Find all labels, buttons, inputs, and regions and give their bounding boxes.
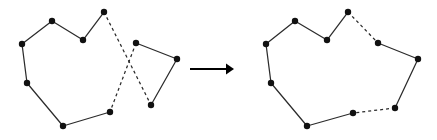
- right-polygon-edge-solid: [307, 113, 353, 126]
- left-polygon-edge-dashed: [104, 12, 151, 105]
- left-polygon-vertex: [133, 40, 139, 46]
- left-polygon-edges: [22, 12, 177, 126]
- right-polygon-edge-solid: [395, 59, 418, 108]
- left-polygon-vertex: [60, 123, 66, 129]
- right-polygon-edge-dashed: [348, 12, 378, 43]
- arrow-head-icon: [226, 64, 234, 75]
- left-polygon-edge-solid: [136, 43, 177, 59]
- right-polygon-edge-solid: [271, 83, 307, 126]
- left-polygon-edge-dashed: [110, 43, 136, 112]
- left-polygon-edge-solid: [22, 44, 27, 83]
- diagram-canvas: [0, 0, 437, 140]
- right-polygon-vertex: [268, 80, 274, 86]
- left-polygon-edge-solid: [151, 59, 177, 105]
- diagram-svg: [0, 0, 437, 140]
- right-polygon-edge-solid: [295, 21, 327, 40]
- left-polygon-edge-solid: [27, 83, 63, 126]
- left-polygon-vertex: [174, 56, 180, 62]
- right-polygon-vertex: [415, 56, 421, 62]
- left-polygon-edge-solid: [63, 112, 110, 126]
- transformation-arrow: [190, 64, 234, 75]
- right-polygon-vertex: [375, 40, 381, 46]
- left-polygon-vertex: [101, 9, 107, 15]
- right-polygon-vertex: [392, 105, 398, 111]
- left-polygon-vertex: [107, 109, 113, 115]
- right-polygon-vertices: [263, 9, 421, 129]
- left-polygon-vertex: [24, 80, 30, 86]
- left-polygon-vertices: [19, 9, 180, 129]
- left-polygon-vertex: [148, 102, 154, 108]
- right-polygon-edge-solid: [266, 44, 271, 83]
- right-polygon-vertex: [345, 9, 351, 15]
- right-polygon-vertex: [263, 41, 269, 47]
- right-polygon-edge-solid: [378, 43, 418, 59]
- left-polygon-edge-solid: [83, 12, 104, 40]
- right-polygon-vertex: [324, 37, 330, 43]
- right-polygon-edge-solid: [327, 12, 348, 40]
- right-polygon-vertex: [304, 123, 310, 129]
- left-polygon-edge-solid: [22, 21, 52, 44]
- left-polygon-vertex: [19, 41, 25, 47]
- left-polygon-vertex: [49, 18, 55, 24]
- right-polygon-edge-solid: [266, 21, 295, 44]
- right-polygon-vertex: [350, 110, 356, 116]
- left-polygon-edge-solid: [52, 21, 83, 40]
- left-polygon-vertex: [80, 37, 86, 43]
- right-polygon-vertex: [292, 18, 298, 24]
- right-polygon-edge-dashed: [353, 108, 395, 113]
